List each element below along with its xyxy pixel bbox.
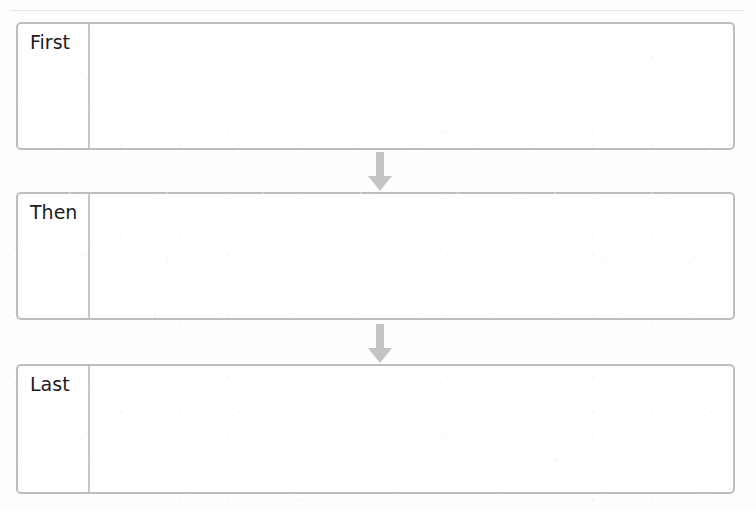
sequence-step-first[interactable]: First bbox=[16, 22, 735, 150]
page-title: Helen Keller bbox=[318, 0, 438, 3]
step-writing-area-last[interactable] bbox=[90, 366, 733, 492]
step-label-cell: Last bbox=[18, 366, 90, 492]
step-writing-area-first[interactable] bbox=[90, 24, 733, 148]
step-label-cell: Then bbox=[18, 194, 90, 318]
down-arrow-icon-first-to-then bbox=[366, 152, 394, 192]
step-label-cell: First bbox=[18, 24, 90, 148]
down-arrow-icon-then-to-last bbox=[366, 324, 394, 364]
step-label-then: Then bbox=[30, 200, 77, 224]
document-title-area: Helen Keller bbox=[0, 0, 756, 7]
sequence-step-last[interactable]: Last bbox=[16, 364, 735, 494]
step-label-last: Last bbox=[30, 372, 70, 396]
step-label-first: First bbox=[30, 30, 70, 54]
sequence-step-then[interactable]: Then bbox=[16, 192, 735, 320]
step-writing-area-then[interactable] bbox=[90, 194, 733, 318]
title-divider-rule bbox=[12, 10, 744, 11]
